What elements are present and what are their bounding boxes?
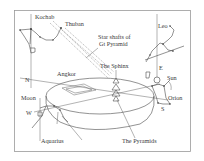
label-star-shafts-1: Star shafts of (98, 33, 132, 40)
label-star-shafts-2: Gt Pyramid (99, 40, 129, 47)
label-north: N (25, 76, 30, 83)
label-kochab: Kochab (35, 13, 54, 20)
label-aquarius: Aquarius (41, 137, 64, 144)
label-south: S (161, 105, 165, 112)
label-thuban: Thuban (65, 20, 84, 27)
label-sphinx: The Sphinx (100, 62, 130, 69)
sun-icon (154, 77, 160, 83)
label-orion: Orion (168, 94, 182, 101)
label-pyramids: The Pyramids (122, 137, 157, 144)
sky-ground-diagram: Kochab Thuban Star shafts of Gt Pyramid … (0, 0, 204, 161)
label-angkor: Angkor (57, 70, 76, 77)
label-west: W (26, 109, 32, 116)
label-sun: Sun (167, 74, 177, 81)
label-leo: Leo (158, 22, 168, 29)
label-east: E (159, 64, 163, 71)
label-moon: Moon (21, 94, 36, 101)
